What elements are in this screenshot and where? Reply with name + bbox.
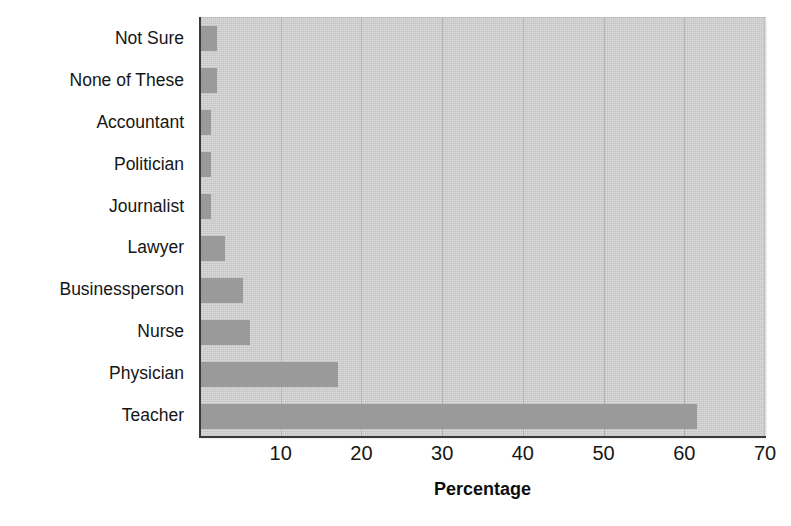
x-tick-label: 10 [251,443,311,463]
category-label: Lawyer [0,239,184,257]
category-axis-labels: Not SureNone of TheseAccountantPoliticia… [0,18,192,437]
category-label: Nurse [0,323,184,341]
bar [200,152,211,177]
category-label: None of These [0,72,184,90]
bar [200,320,250,345]
bar [200,278,243,303]
bar [200,110,211,135]
category-label: Teacher [0,407,184,425]
gridline-50 [604,18,605,437]
x-tick-label: 60 [654,443,714,463]
category-label: Journalist [0,198,184,216]
gridline-60 [684,18,685,437]
gridline-30 [442,18,443,437]
category-label: Physician [0,365,184,383]
gridline-40 [523,18,524,437]
y-axis-line [199,17,201,438]
bar [200,404,697,429]
gridline-20 [361,18,362,437]
x-tick-label: 50 [574,443,634,463]
category-label: Politician [0,156,184,174]
x-axis-title: Percentage [200,479,765,500]
plot-area [200,18,765,437]
x-tick-label: 20 [331,443,391,463]
bar [200,68,217,93]
x-tick-label: 40 [493,443,553,463]
bar [200,194,211,219]
x-tick-label: 30 [412,443,472,463]
bar [200,362,338,387]
bar [200,26,217,51]
category-label: Accountant [0,114,184,132]
x-tick-label: 70 [735,443,791,463]
bar-chart: Not SureNone of TheseAccountantPoliticia… [0,0,791,526]
x-axis-line [199,436,766,438]
bar [200,236,225,261]
plot-right-edge [764,17,765,438]
plot-top-edge [199,17,766,18]
category-label: Not Sure [0,30,184,48]
category-label: Businessperson [0,281,184,299]
